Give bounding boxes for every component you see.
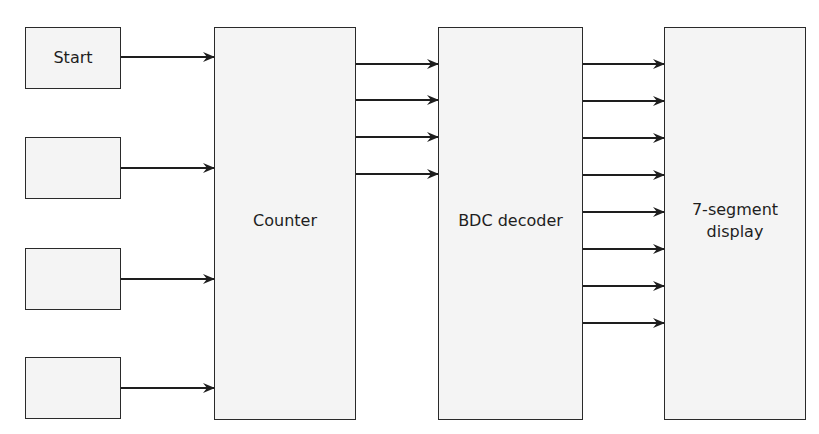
start-block: Start bbox=[25, 27, 121, 89]
counter-block: Counter bbox=[214, 27, 356, 420]
input-block-3 bbox=[25, 248, 121, 310]
input-block-2 bbox=[25, 137, 121, 199]
bcd-decoder-block: BDC decoder bbox=[438, 27, 583, 420]
seven-segment-display-block: 7-segment display bbox=[664, 27, 806, 420]
counter-label: Counter bbox=[253, 210, 317, 232]
input-block-4 bbox=[25, 357, 121, 419]
start-label: Start bbox=[53, 47, 92, 69]
bcd-decoder-label: BDC decoder bbox=[458, 210, 563, 232]
display-label: 7-segment display bbox=[692, 199, 778, 243]
